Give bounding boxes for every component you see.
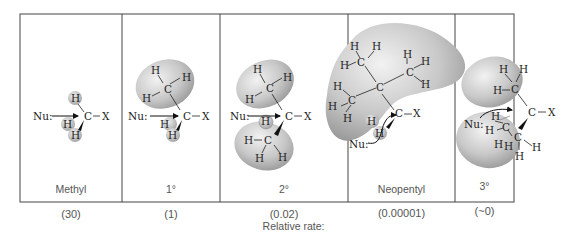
- svg-text:H: H: [340, 59, 349, 71]
- svg-text:H: H: [532, 141, 541, 153]
- primary-molecule: Nu: H H C H C X H H: [128, 51, 210, 142]
- svg-text:H: H: [421, 78, 430, 90]
- svg-text:X: X: [548, 106, 556, 118]
- svg-text:H: H: [491, 110, 500, 122]
- svg-text:H: H: [485, 124, 494, 136]
- svg-text:Nu:: Nu:: [128, 110, 148, 122]
- svg-text:H: H: [245, 93, 254, 105]
- sn2-steric-hindrance-figure: Nu: H C X H H Nu: H H C H C X H H: [0, 0, 587, 238]
- svg-text:C: C: [84, 110, 92, 122]
- svg-text:H: H: [71, 129, 80, 141]
- svg-text:Nu:: Nu:: [230, 110, 250, 122]
- panel-label-methyl: Methyl: [20, 183, 122, 195]
- svg-text:C: C: [502, 121, 510, 133]
- svg-text:C: C: [511, 83, 519, 95]
- svg-text:H: H: [499, 63, 508, 75]
- svg-text:H: H: [283, 71, 292, 83]
- svg-text:X: X: [202, 110, 210, 122]
- svg-text:H: H: [278, 151, 287, 163]
- svg-text:H: H: [372, 40, 381, 52]
- svg-text:H: H: [182, 71, 191, 83]
- panel-label-secondary: 2°: [220, 183, 348, 195]
- rate-primary: (1): [122, 208, 220, 220]
- svg-text:H: H: [403, 48, 412, 60]
- rate-tertiary: (~0): [455, 205, 514, 217]
- svg-text:C: C: [285, 110, 293, 122]
- svg-text:H: H: [504, 140, 513, 152]
- svg-text:H: H: [367, 115, 376, 127]
- rate-secondary: (0.02): [220, 208, 348, 220]
- svg-text:X: X: [304, 110, 312, 122]
- svg-text:X: X: [102, 110, 110, 122]
- svg-text:H: H: [519, 63, 528, 75]
- svg-text:H: H: [515, 150, 524, 162]
- neopentyl-molecule: H H H C H H C H C H H C H C X H H Nu:: [326, 23, 465, 150]
- svg-text:H: H: [244, 134, 253, 146]
- svg-text:H: H: [253, 63, 262, 75]
- svg-text:H: H: [343, 112, 352, 124]
- svg-text:H: H: [494, 138, 503, 150]
- svg-text:H: H: [493, 84, 502, 96]
- svg-text:C: C: [406, 66, 414, 78]
- svg-text:C: C: [357, 56, 365, 68]
- svg-text:H: H: [261, 115, 270, 127]
- panel-label-neopentyl: Neopentyl: [348, 183, 455, 195]
- panel-label-tertiary: 3°: [455, 180, 514, 192]
- svg-text:C: C: [395, 107, 403, 119]
- svg-text:H: H: [328, 100, 337, 112]
- panel-label-primary: 1°: [122, 183, 220, 195]
- svg-text:C: C: [348, 94, 356, 106]
- svg-text:C: C: [164, 83, 172, 95]
- svg-text:Nu:: Nu:: [464, 118, 484, 130]
- svg-text:H: H: [255, 152, 264, 164]
- svg-text:H: H: [375, 127, 384, 139]
- svg-text:X: X: [413, 107, 421, 119]
- svg-text:C: C: [376, 81, 384, 93]
- svg-text:Nu:: Nu:: [349, 138, 369, 150]
- svg-text:H: H: [350, 40, 359, 52]
- svg-text:H: H: [333, 80, 342, 92]
- svg-text:C: C: [264, 134, 272, 146]
- svg-text:H: H: [421, 55, 430, 67]
- svg-text:H: H: [142, 92, 151, 104]
- svg-text:H: H: [168, 129, 177, 141]
- svg-text:C: C: [266, 82, 274, 94]
- secondary-molecule: Nu: H H C H C X H H C H H: [228, 50, 312, 176]
- methyl-molecule: Nu: H C X H H: [33, 91, 110, 142]
- nucleophile-label: Nu:: [33, 110, 53, 122]
- relative-rate-caption: Relative rate:: [0, 220, 587, 232]
- tertiary-molecule: Nu: H H H C C X H H C H H C H H: [452, 50, 556, 173]
- svg-text:H: H: [151, 64, 160, 76]
- svg-text:C: C: [528, 106, 536, 118]
- rate-neopentyl: (0.00001): [348, 207, 455, 219]
- svg-text:C: C: [183, 110, 191, 122]
- svg-text:H: H: [71, 92, 80, 104]
- svg-text:C: C: [514, 131, 522, 143]
- figure-canvas: Nu: H C X H H Nu: H H C H C X H H: [0, 0, 587, 238]
- rate-methyl: (30): [20, 208, 122, 220]
